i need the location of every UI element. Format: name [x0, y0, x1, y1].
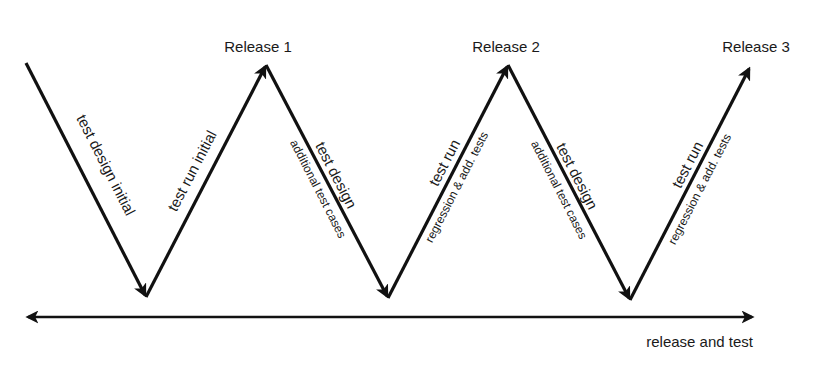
segment-test-run-2 — [388, 67, 507, 298]
release-3-label: Release 3 — [722, 38, 790, 55]
phase-1-label: test design initial — [73, 112, 139, 218]
release-2-label: Release 2 — [472, 38, 540, 55]
segment-test-design-initial — [26, 63, 145, 295]
timeline-label: release and test — [646, 333, 754, 350]
segment-test-run-3 — [630, 69, 749, 300]
zigzag-path — [26, 63, 749, 300]
segment-test-design-2 — [266, 65, 387, 296]
iterative-test-process-diagram: Release 1 Release 2 Release 3 test desig… — [0, 0, 832, 366]
segment-test-run-initial — [146, 67, 265, 297]
segment-test-design-3 — [508, 65, 629, 298]
timeline-axis: release and test — [28, 317, 754, 350]
release-1-label: Release 1 — [224, 38, 292, 55]
